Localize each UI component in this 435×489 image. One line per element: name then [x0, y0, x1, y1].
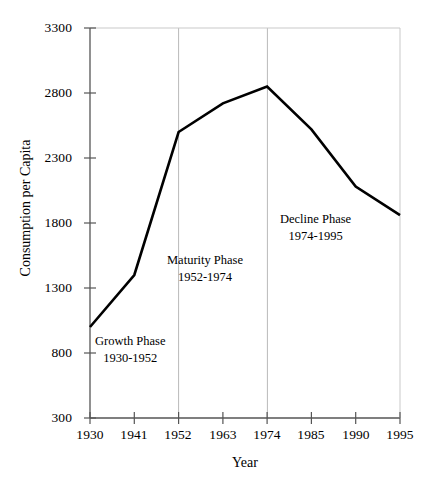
annotation-growth-phase: Growth Phase 1930-1952 — [95, 333, 165, 367]
annotation-decline-phase-range: 1974-1995 — [280, 228, 351, 245]
x-axis-title: Year — [155, 455, 335, 471]
product-life-cycle-chart: 3300 2800 2300 1800 1300 800 300 1930 19… — [0, 0, 435, 489]
consumption-line-series — [90, 87, 400, 328]
phase-divider-gridlines — [179, 28, 268, 418]
annotation-decline-phase: Decline Phase 1974-1995 — [280, 211, 351, 245]
annotation-maturity-phase-title: Maturity Phase — [167, 252, 243, 269]
annotation-maturity-phase: Maturity Phase 1952-1974 — [167, 252, 243, 286]
y-axis-title: Consumption per Capita — [18, 108, 34, 308]
annotation-maturity-phase-range: 1952-1974 — [167, 269, 243, 286]
y-tick-label-2800: 2800 — [26, 86, 72, 100]
annotation-growth-phase-title: Growth Phase — [95, 333, 165, 350]
annotation-decline-phase-title: Decline Phase — [280, 211, 351, 228]
annotation-growth-phase-range: 1930-1952 — [95, 350, 165, 367]
y-tick-label-800: 800 — [26, 346, 72, 360]
y-tick-label-300: 300 — [26, 411, 72, 425]
y-tick-label-3300: 3300 — [26, 21, 72, 35]
x-tick-label-1995: 1995 — [370, 428, 430, 442]
